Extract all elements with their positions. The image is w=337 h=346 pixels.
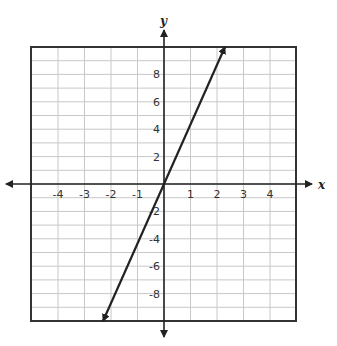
x-tick-label: 1 xyxy=(187,188,194,201)
x-tick-label: -3 xyxy=(79,188,90,201)
y-tick-label: -8 xyxy=(149,288,160,301)
x-tick-label: -1 xyxy=(132,188,143,201)
x-tick-label: -4 xyxy=(53,188,64,201)
x-tick-label: 2 xyxy=(214,188,221,201)
y-tick-label: 2 xyxy=(153,151,160,164)
x-tick-label: -2 xyxy=(106,188,117,201)
x-axis-label: x xyxy=(317,178,326,192)
y-tick-label: -4 xyxy=(149,233,160,246)
y-tick-label: 6 xyxy=(153,96,160,109)
x-tick-label: 3 xyxy=(240,188,247,201)
y-axis-label: y xyxy=(159,14,168,28)
y-tick-label: -6 xyxy=(149,260,160,273)
y-tick-label: 8 xyxy=(153,68,160,81)
y-tick-label: 4 xyxy=(153,123,160,136)
coordinate-plane: xy-4-3-2-112348642-2-4-6-8 xyxy=(0,0,337,346)
x-tick-label: 4 xyxy=(267,188,274,201)
